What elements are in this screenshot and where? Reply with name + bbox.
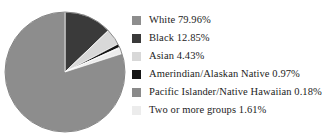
legend-swatch-asian-icon bbox=[132, 52, 141, 61]
chart-legend: White 79.96% Black 12.85% Asian 4.43% Am… bbox=[131, 11, 321, 131]
legend-label-pacific-islander: Pacific Islander/Native Hawaiian 0.18% bbox=[149, 86, 322, 98]
pie-chart-svg bbox=[0, 0, 132, 140]
legend-swatch-white-icon bbox=[132, 16, 141, 25]
legend-swatch-two-or-more-icon bbox=[132, 106, 141, 115]
legend-item-asian[interactable]: Asian 4.43% bbox=[131, 47, 321, 65]
pie-slice-group bbox=[5, 12, 125, 132]
legend-item-amerindian[interactable]: Amerindian/Alaskan Native 0.97% bbox=[131, 65, 321, 83]
legend-label-black: Black 12.85% bbox=[149, 32, 210, 44]
legend-label-asian: Asian 4.43% bbox=[149, 50, 204, 62]
legend-item-white[interactable]: White 79.96% bbox=[131, 11, 321, 29]
legend-label-amerindian: Amerindian/Alaskan Native 0.97% bbox=[149, 68, 300, 80]
legend-swatch-pacific-islander-icon bbox=[132, 88, 141, 97]
legend-item-two-or-more[interactable]: Two or more groups 1.61% bbox=[131, 101, 321, 119]
legend-swatch-amerindian-icon bbox=[132, 70, 141, 79]
legend-label-two-or-more: Two or more groups 1.61% bbox=[149, 104, 266, 116]
legend-swatch-black-icon bbox=[132, 34, 141, 43]
legend-label-white: White 79.96% bbox=[149, 14, 211, 26]
pie-chart-plot-area bbox=[0, 0, 132, 140]
legend-item-pacific-islander[interactable]: Pacific Islander/Native Hawaiian 0.18% bbox=[131, 83, 321, 101]
legend-item-black[interactable]: Black 12.85% bbox=[131, 29, 321, 47]
